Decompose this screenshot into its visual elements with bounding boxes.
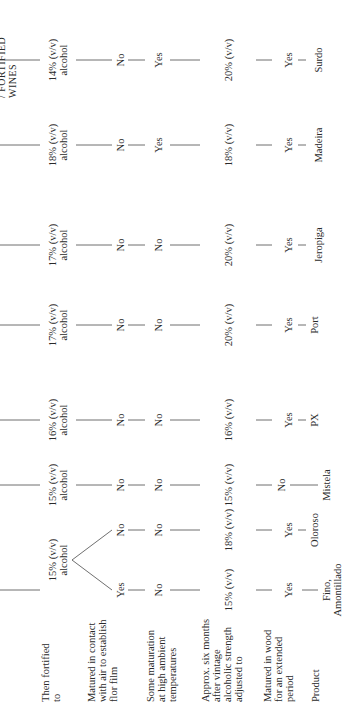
row-label-fortified: Then fortified to (40, 592, 62, 702)
row-label-wood-matured: Matured in wood for an extended period (262, 592, 295, 702)
jeropiga-wood-value: Yes (283, 237, 294, 252)
fino-contact-value: Yes (115, 582, 126, 597)
px-adjusted-value: 16% (v/v) (223, 399, 234, 441)
fino-adjusted-value: 15% (v/v) (223, 569, 234, 611)
product-port: Port (309, 316, 320, 334)
madeira-fortified-value: 18% (v/v) alcohol (47, 124, 69, 166)
port-contact-value: No (115, 319, 126, 332)
madeira-contact-value: No (115, 139, 126, 152)
surdo-ambient-value: Yes (153, 52, 164, 67)
port-ambient-value: No (153, 319, 164, 332)
px-wood-value: Yes (283, 412, 294, 427)
px-fortified-value: 16% (v/v) alcohol (47, 399, 69, 441)
rotated-book-page: / FORTIFIED WINES Then fortified to Matu… (0, 0, 345, 710)
mistela-ambient-value: No (153, 479, 164, 492)
oloroso-wood-value: Yes (283, 522, 294, 537)
port-wood-value: Yes (283, 317, 294, 332)
mistela-fortified-value: 15% (v/v) alcohol (47, 464, 69, 506)
row-label-product: Product (310, 592, 321, 702)
px-contact-value: No (115, 414, 126, 427)
madeira-adjusted-value: 18% (v/v) (223, 124, 234, 166)
surdo-wood-value: Yes (283, 52, 294, 67)
surdo-adjusted-value: 20% (v/v) (223, 39, 234, 81)
port-fortified-value: 17% (v/v) alcohol (47, 304, 69, 346)
product-madeira: Madeira (313, 128, 324, 163)
jeropiga-ambient-value: No (153, 239, 164, 252)
jeropiga-fortified-value: 17% (v/v) alcohol (47, 224, 69, 266)
surdo-contact-value: No (115, 54, 126, 67)
mistela-contact-value: No (115, 479, 126, 492)
product-oloroso: Oloroso (309, 513, 320, 547)
mistela-wood-value: No (276, 479, 287, 492)
jeropiga-adjusted-value: 20% (v/v) (223, 224, 234, 266)
product-surdo: Surdo (313, 47, 324, 72)
port-adjusted-value: 20% (v/v) (223, 304, 234, 346)
sherry-fortified-value: 15% (v/v) alcohol (47, 539, 69, 581)
jeropiga-contact-value: No (115, 239, 126, 252)
fino-wood-value: Yes (283, 582, 294, 597)
surdo-fortified-value: 14% (v/v) alcohol (47, 39, 69, 81)
madeira-wood-value: Yes (283, 137, 294, 152)
product-fino-amontillado: Fino, Amontillado (321, 563, 343, 616)
row-label-air-contact: Matured in contact with air to establish… (86, 592, 119, 702)
product-mistela: Mistela (321, 469, 332, 501)
row-label-ambient-temp: Some maturation at high ambient temperat… (145, 592, 178, 702)
px-ambient-value: No (153, 414, 164, 427)
product-px: PX (309, 413, 320, 426)
product-jeropiga: Jeropiga (313, 227, 324, 263)
mistela-adjusted-value: 15% (v/v) (223, 464, 234, 506)
oloroso-contact-value: No (115, 524, 126, 537)
oloroso-adjusted-value: 18% (v/v) (223, 509, 234, 551)
oloroso-ambient-value: No (153, 524, 164, 537)
madeira-ambient-value: Yes (153, 137, 164, 152)
fino-ambient-value: No (153, 584, 164, 597)
